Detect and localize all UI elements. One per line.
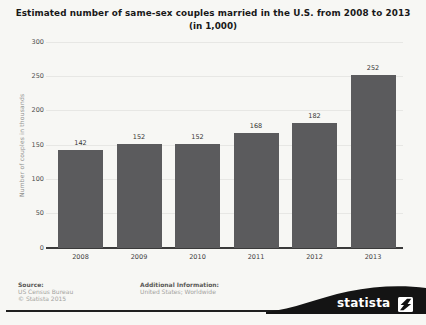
source-label: Source:	[18, 281, 73, 288]
chart-subtitle: (in 1,000)	[0, 21, 426, 31]
statista-logo-wordmark: statista	[337, 296, 390, 310]
y-tick-label-50: 50	[0, 210, 44, 217]
bar-2008	[58, 150, 103, 248]
gridline-250	[46, 76, 403, 77]
bar-2013	[351, 75, 396, 248]
x-tick-label-2009: 2009	[117, 254, 162, 261]
x-tick-label-2013: 2013	[351, 254, 396, 261]
source-name: US Census Bureau	[18, 288, 73, 295]
gridline-300	[46, 42, 403, 43]
y-tick-label-250: 250	[0, 73, 44, 80]
y-tick-label-100: 100	[0, 176, 44, 183]
additional-info-block: Additional Information: United States; W…	[140, 281, 219, 295]
additional-info-value: United States; Worldwide	[140, 288, 219, 295]
value-label-2013: 252	[351, 65, 396, 72]
y-tick-label-150: 150	[0, 142, 44, 149]
value-label-2009: 152	[117, 134, 162, 141]
y-tick-label-0: 0	[0, 245, 44, 252]
bar-2012	[292, 123, 337, 248]
bar-2009	[117, 144, 162, 248]
value-label-2012: 182	[292, 113, 337, 120]
chart-title: Estimated number of same-sex couples mar…	[0, 8, 426, 18]
gridline-200	[46, 110, 403, 111]
x-tick-label-2011: 2011	[234, 254, 279, 261]
source-block: Source: US Census Bureau © Statista 2015	[18, 281, 73, 302]
value-label-2008: 142	[58, 140, 103, 147]
copyright-notice: © Statista 2015	[18, 295, 73, 302]
y-tick-label-200: 200	[0, 107, 44, 114]
additional-info-label: Additional Information:	[140, 281, 219, 288]
bar-2011	[234, 133, 279, 248]
bar-2010	[175, 144, 220, 248]
statista-lightning-icon	[398, 297, 413, 312]
x-tick-label-2012: 2012	[292, 254, 337, 261]
value-label-2011: 168	[234, 123, 279, 130]
value-label-2010: 152	[175, 134, 220, 141]
y-tick-label-300: 300	[0, 39, 44, 46]
x-tick-label-2008: 2008	[58, 254, 103, 261]
statista-chart-screenshot: Estimated number of same-sex couples mar…	[0, 0, 426, 325]
x-tick-label-2010: 2010	[175, 254, 220, 261]
